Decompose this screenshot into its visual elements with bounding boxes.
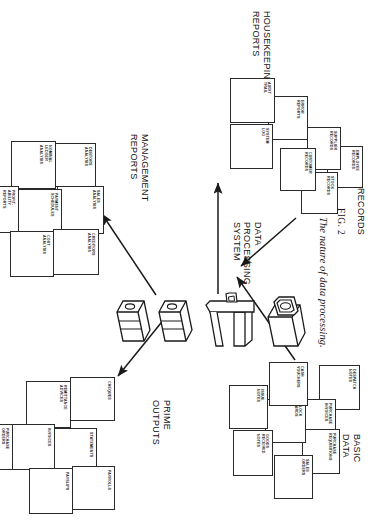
doc-label: CHEQUES [107,381,111,400]
doc-label: NOMINAL LEDGER ANALYSIS [39,145,52,164]
doc-box: CUSTOMER RECORDS [280,148,316,191]
doc-label: STATEMENTS [89,432,93,457]
doc-box: ISSUE NOTES [229,385,268,429]
figure-page: HOUSEKEEPING REPORTS ERROR REPORTS SYSTE… [0,0,368,532]
tape-drive-lower-icon [114,296,154,344]
doc-label: PURCHASE ORDERS [0,428,9,449]
doc-box: GOODS RECEIVED NOTES [233,430,273,476]
doc-label: SALES ANALYSIS [91,190,100,209]
doc-label: AUDIT TRAIL [262,82,271,94]
doc-label: CREDITORS ANALYSIS [86,233,95,255]
doc-label: INVOICES [47,428,51,446]
doc-box: SALES ORDERS [274,455,313,499]
doc-label: GOODS RECEIVED NOTES [256,434,269,454]
doc-label: PROFIT- ABILITY REPORTS [2,190,15,208]
doc-box: PAYSLIPS [29,468,73,514]
doc-label: CASH VOUCHERS [295,366,304,388]
diagram-canvas: HOUSEKEEPING REPORTS ERROR REPORTS SYSTE… [0,0,368,532]
doc-box: AUDIT TRAIL [230,78,275,123]
center-label-data-processing-system: DATA PROCESSING SYSTEM [232,222,264,285]
group-label-housekeeping-reports: HOUSEKEEPING REPORTS [251,11,272,87]
caption-figure-number: FIG. 2 [336,208,346,235]
doc-box: REMITTANCE ADVICES [26,381,71,428]
doc-label: SALES ORDERS [300,459,309,475]
tape-drive-upper-icon [156,296,196,344]
doc-box: CASH VOUCHERS [269,362,308,406]
group-label-records: RECORDS [356,188,367,235]
doc-label: ISSUE NOTES [255,389,264,402]
doc-label: REMITTANCE ADVICES [58,385,67,410]
doc-label: PAYSLIPS [65,472,69,490]
doc-label: ERROR REPORTS [295,100,304,118]
group-label-management-reports: MANAGEMENT REPORTS [129,134,150,202]
doc-box: COST ANALYSIS [10,231,54,277]
doc-label: PURCHASE INVOICES [323,403,332,424]
doc-box: CREDITORS ANALYSIS [53,229,99,275]
doc-box: PAYROLLS [72,466,115,510]
caption-figure-text: The nature of data processing. [318,217,329,348]
printer-device-icon [264,293,308,349]
doc-box: PURCHASE ORDERS [0,424,13,470]
doc-box: INVOICES [9,424,55,470]
arrow-system-to-management-reports [102,214,156,295]
doc-label: DESPATCH NOTES [347,369,356,389]
computer-console-device-icon [204,288,256,350]
doc-label: PAYMENT SCHEDULES [49,193,58,217]
doc-box: CHEQUES [70,377,115,421]
doc-box: DEBTORS ANALYSIS [52,143,96,187]
doc-box: NOMINAL LEDGER ANALYSIS [11,141,56,189]
doc-box: PROFIT- ABILITY REPORTS [0,186,19,233]
doc-label: PAYROLLS [107,470,111,490]
doc-label: EMPLOYEE RECORDS [350,150,359,171]
group-label-prime-outputs: PRIME OUTPUTS [151,400,172,445]
doc-label: DEBTORS ANALYSIS [83,147,92,166]
doc-label: SUPPLIER RECORDS [328,131,337,150]
doc-box: SYSTEM LOG [230,124,273,169]
doc-box: SALES ANALYSIS [57,186,104,234]
doc-label: STOCK RECORDS [325,176,334,195]
figure-caption: FIG. 2 The nature of data processing. [316,208,352,339]
doc-label: CUSTOMER RECORDS [303,152,312,174]
group-label-basic-data: BASIC DATA [341,434,362,463]
doc-label: COST ANALYSIS [41,235,50,254]
doc-label: PURCHASE REQUISITIONS [327,433,336,461]
doc-label: SYSTEM LOG [260,128,269,144]
